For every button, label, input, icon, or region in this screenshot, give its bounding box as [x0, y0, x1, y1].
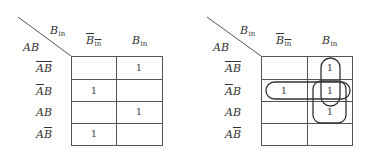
column-header-bin: Bin	[322, 35, 337, 48]
column-header-bin-bar: Bin	[276, 35, 291, 48]
kmap-right-grid	[0, 0, 370, 152]
row-header-abar-bbar: AB	[225, 63, 241, 74]
row-header-a-b: AB	[225, 107, 241, 118]
cell-r1-c2: 1	[320, 63, 340, 73]
kmap-right: Bin AB Bin Bin AB AB AB AB 1 1 1 1	[0, 0, 370, 152]
cell-r2-c1: 1	[274, 86, 294, 96]
cell-r3-c2: 1	[320, 107, 340, 117]
corner-row-var: AB	[213, 42, 229, 53]
cell-r2-c2: 1	[320, 86, 340, 96]
row-header-a-bbar: AB	[225, 129, 241, 140]
row-header-abar-b: AB	[225, 86, 241, 97]
corner-col-var: Bin	[240, 25, 255, 38]
